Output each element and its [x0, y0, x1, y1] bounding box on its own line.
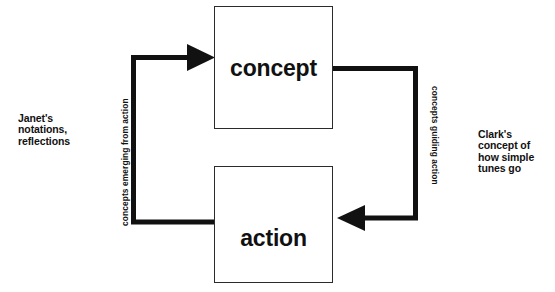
annotation-clark-note: Clark's concept of how simple tunes go	[478, 129, 554, 175]
annotation-janet-note: Janet's notations, reflections	[18, 113, 110, 147]
arrowhead-into-action	[337, 205, 365, 231]
node-action: action	[214, 166, 333, 283]
arrowhead-into-concept	[187, 44, 215, 71]
node-concept: concept	[214, 6, 333, 129]
arrow-concept-to-action	[333, 69, 416, 232]
edge-label-concepts-guiding-action: concepts guiding action	[430, 86, 440, 185]
arrow-action-to-concept	[134, 44, 216, 222]
edge-label-concepts-emerging-from-action: concepts emerging from action	[120, 98, 130, 226]
node-concept-label: concept	[230, 57, 317, 80]
diagram-canvas: concept action concepts emerging from ac…	[0, 0, 555, 292]
node-action-label: action	[240, 227, 307, 250]
